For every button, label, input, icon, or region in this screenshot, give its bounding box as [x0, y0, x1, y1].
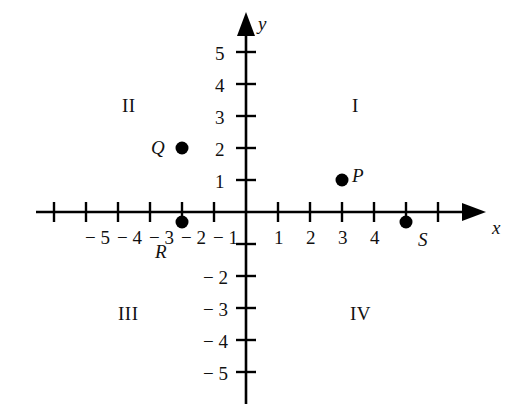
y-tick-label-1: 1	[215, 172, 225, 191]
x-axis-name: x	[492, 218, 500, 237]
x-tick-label-2: 2	[306, 228, 316, 247]
x-tick-label-negneg2: − 2	[181, 228, 206, 247]
y-tick-label-3: 3	[215, 108, 225, 127]
axis-arrowheads	[237, 12, 486, 221]
axes-group	[36, 20, 479, 404]
point-label-S: S	[418, 230, 428, 249]
point-label-R: R	[155, 242, 167, 261]
y-axis-arrowhead	[237, 12, 255, 36]
point-label-P: P	[352, 166, 364, 185]
data-point-markers	[176, 142, 413, 229]
quadrant-label-IV: IV	[350, 304, 371, 323]
x-tick-label-4: 4	[370, 228, 380, 247]
y-tick-label-2: 2	[215, 140, 225, 159]
quadrant-label-III: III	[118, 304, 138, 323]
x-tick-label-3: 3	[338, 228, 348, 247]
x-tick-label-1: 1	[274, 228, 284, 247]
axes-and-points-canvas	[0, 0, 519, 417]
y-tick-label-negneg5: − 5	[203, 364, 228, 383]
y-tick-label-negneg3: − 3	[203, 300, 228, 319]
y-tick-label-5: 5	[215, 44, 225, 63]
y-tick-label-4: 4	[215, 76, 225, 95]
point-marker-S[interactable]	[400, 216, 413, 229]
quadrant-label-I: I	[352, 96, 359, 115]
x-tick-label-negneg4: − 4	[117, 228, 142, 247]
x-tick-label-negneg1: − 1	[213, 228, 238, 247]
point-label-Q: Q	[151, 138, 165, 157]
x-axis-arrowhead	[462, 203, 486, 221]
y-axis-name: y	[258, 14, 266, 33]
quadrant-label-II: II	[122, 96, 136, 115]
point-marker-P[interactable]	[336, 174, 349, 187]
point-marker-Q[interactable]	[176, 142, 189, 155]
y-tick-label-negneg4: − 4	[203, 332, 228, 351]
x-tick-label-negneg5: − 5	[85, 228, 110, 247]
coordinate-plane-figure: − 5− 4− 3− 2− 11234 54321− 2− 3− 4− 5 II…	[0, 0, 519, 417]
y-tick-label-negneg2: − 2	[203, 268, 228, 287]
